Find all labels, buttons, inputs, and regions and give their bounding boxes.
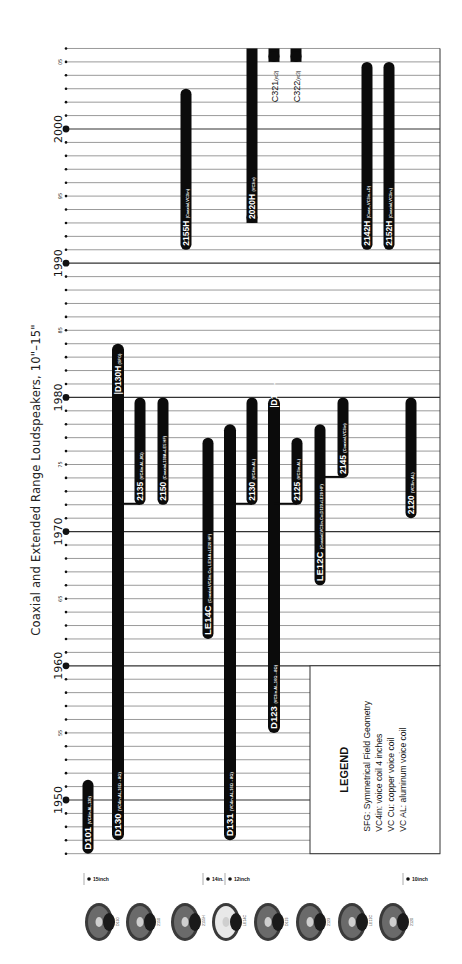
bar-2020h: 2020H (VC3in) — [247, 48, 258, 222]
size-group-label: 10inch — [412, 876, 428, 882]
year-tick — [65, 114, 68, 117]
size-group-label: 15inch — [93, 876, 109, 882]
year-tick — [65, 369, 68, 372]
bar-2155h: 2155H (Coaxial,VC3in) — [181, 89, 192, 250]
year-tick — [65, 450, 68, 453]
speaker-photo-label: D130 — [116, 917, 120, 926]
minor-year-label: 75 — [57, 461, 63, 467]
bar-2152h: 2152H (Coaxial,VC3in.) — [384, 62, 395, 250]
minor-year-label: 65 — [57, 596, 63, 602]
year-tick — [65, 839, 68, 842]
year-tick — [65, 544, 68, 547]
legend-item: VC4in: voice coil 4 inches — [374, 734, 384, 832]
bar-d101: D101 (VC4in.AL,120) — [82, 780, 93, 854]
year-tick — [65, 678, 68, 681]
size-group-labels: 15inch14in.12inch10inch — [84, 873, 428, 885]
speaker-photo-d123: D123 — [254, 903, 289, 941]
legend-item: VC AL: aluminum voice coil — [398, 727, 408, 831]
bar-2120: 2120 (VC3in.AL) — [406, 397, 417, 518]
speaker-photo-2155h: 2155H — [171, 903, 206, 941]
minor-year-label: 05 — [57, 59, 63, 65]
year-label: 2000 — [52, 115, 65, 143]
year-tick — [65, 208, 68, 211]
year-tick — [65, 356, 68, 359]
year-label: 1960 — [52, 652, 65, 680]
bar-le12c: LE12C (Coaxial,VC3in.Cu,D123+LE20 HF) — [314, 424, 325, 585]
year-tick — [65, 691, 68, 694]
year-tick — [65, 423, 68, 426]
year-tick — [65, 557, 68, 560]
year-tick — [65, 732, 68, 735]
speaker-photo-label: 2155H — [202, 915, 206, 926]
year-tick — [65, 436, 68, 439]
year-tick — [65, 463, 68, 466]
speaker-photo-label: LE14C — [243, 915, 247, 926]
legend-title: LEGEND — [338, 747, 350, 793]
year-tick — [65, 597, 68, 600]
speaker-photo-label: 2123 — [327, 918, 331, 926]
year-tick — [65, 302, 68, 305]
year-tick — [65, 410, 68, 413]
year-tick — [65, 329, 68, 332]
year-label: 1950 — [52, 786, 65, 814]
year-axis: 195019601970198019902000556575859505 — [52, 47, 69, 855]
speaker-photo-label: 2120 — [410, 918, 414, 926]
year-tick — [65, 705, 68, 708]
minor-year-label: 55 — [57, 730, 63, 736]
year-tick — [65, 61, 68, 64]
bar-2142h: 2142H (Coax.,VC3in.+D) — [362, 62, 373, 250]
year-tick — [65, 275, 68, 278]
speaker-photo-2150: 2150 — [126, 903, 161, 941]
legend-item: VC Cu: copper voice coil — [386, 737, 396, 831]
year-label: 1990 — [52, 249, 65, 277]
year-tick — [65, 141, 68, 144]
year-tick — [65, 477, 68, 480]
year-tick — [65, 74, 68, 77]
year-tick — [65, 47, 68, 50]
year-tick — [65, 638, 68, 641]
legend-item: SFG: Symmetrical Field Geometry — [362, 700, 372, 832]
speaker-photo-le14c: LE14C — [212, 903, 247, 941]
year-tick — [65, 785, 68, 788]
year-label: 1970 — [52, 518, 65, 546]
year-tick — [65, 624, 68, 627]
year-tick — [65, 826, 68, 829]
year-tick — [65, 490, 68, 493]
year-tick — [65, 745, 68, 748]
bar-le14c: LE14C (Coaxial,VC4in.Cu, LE14A+LE20 HF) — [202, 438, 213, 639]
timeline-chart: 195019601970198019902000556575859505 D10… — [0, 0, 462, 964]
year-tick — [65, 181, 68, 184]
year-tick — [65, 87, 68, 90]
minor-year-label: 95 — [57, 193, 63, 199]
year-tick — [65, 222, 68, 225]
year-tick — [65, 812, 68, 815]
speaker-photo-2120: 2120 — [379, 903, 414, 941]
year-tick — [65, 248, 68, 251]
year-tick — [65, 503, 68, 506]
speaker-photo-label: D123 — [285, 917, 289, 926]
size-group-label: 12inch — [234, 876, 250, 882]
year-tick — [65, 611, 68, 614]
year-tick — [65, 235, 68, 238]
bar-d130: D130 (VC4in.AL,16Ω→8Ω)|D130H (SFG) — [112, 344, 124, 841]
year-tick — [65, 195, 68, 198]
year-tick — [65, 651, 68, 654]
speaker-photo-label: 2150 — [157, 918, 161, 926]
year-tick — [65, 758, 68, 761]
year-tick — [65, 772, 68, 775]
year-tick — [65, 155, 68, 158]
year-tick — [65, 517, 68, 520]
variant-label: |D123-3 — [269, 377, 279, 408]
year-tick — [65, 168, 68, 171]
speaker-photos: D13021502155HLE14CD1232123LE12C2120 — [85, 903, 414, 941]
year-tick — [65, 718, 68, 721]
minor-year-label: 85 — [57, 327, 63, 333]
year-label: 1980 — [52, 383, 65, 411]
bar-d123: D123 (VC3in.AL,16Ω→8Ω)|D123-3 — [268, 377, 280, 733]
speaker-photo-2123: 2123 — [296, 903, 331, 941]
year-tick — [65, 101, 68, 104]
speaker-photo-le12c: LE12C — [338, 903, 373, 941]
year-tick — [65, 852, 68, 855]
year-tick — [65, 342, 68, 345]
chart-title: Coaxial and Extended Range Loudspeakers,… — [29, 324, 43, 635]
